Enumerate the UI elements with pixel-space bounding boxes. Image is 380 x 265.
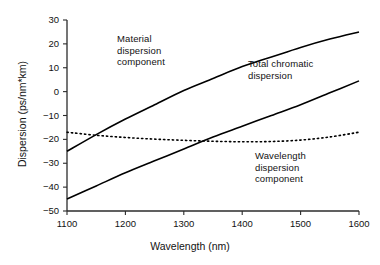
x-tick-label: 1200 xyxy=(105,218,145,229)
y-tick-label: −50 xyxy=(33,205,59,216)
y-tick-label: 20 xyxy=(33,38,59,49)
y-tick-label: −10 xyxy=(33,110,59,121)
annotation-material-dispersion: Material dispersion component xyxy=(117,33,165,68)
y-tick-label: −40 xyxy=(33,181,59,192)
annotation-total-chromatic-dispersion: Total chromatic dispersion xyxy=(248,58,313,81)
x-tick-label: 1300 xyxy=(164,218,204,229)
curve-total-chromatic-dispersion xyxy=(67,81,359,199)
x-tick-label: 1400 xyxy=(222,218,262,229)
y-tick-label: 0 xyxy=(33,86,59,97)
y-tick-label: 10 xyxy=(33,62,59,73)
x-axis-title: Wavelength (nm) xyxy=(0,240,380,252)
y-tick-label: 30 xyxy=(33,14,59,25)
dispersion-chart: 3020100−10−20−30−40−50 11001200130014001… xyxy=(0,0,380,265)
x-tick-label: 1100 xyxy=(47,218,87,229)
y-tick-label: −30 xyxy=(33,157,59,168)
y-tick-label: −20 xyxy=(33,133,59,144)
curve-material-dispersion xyxy=(67,32,359,151)
x-tick-label: 1500 xyxy=(281,218,321,229)
x-tick-label: 1600 xyxy=(339,218,379,229)
y-axis-title: Dispersion (ps/nm*km) xyxy=(16,14,28,214)
annotation-wavelength-dispersion: Wavelength dispersion component xyxy=(255,150,306,185)
